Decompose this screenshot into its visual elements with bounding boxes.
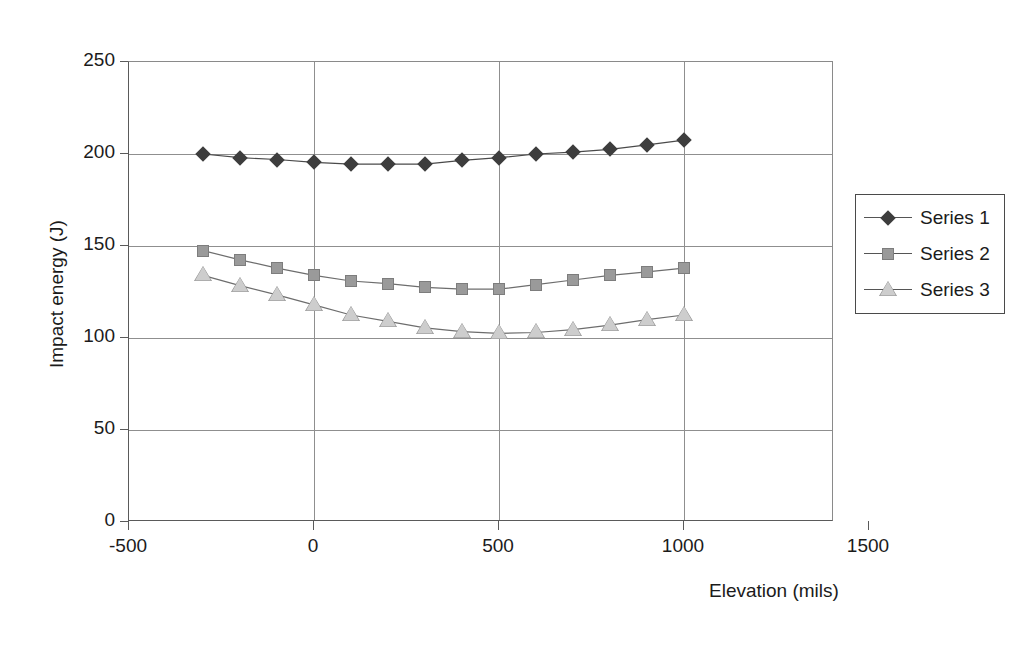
y-axis-tick [120,521,128,522]
x-axis-tick-label: 500 [453,535,543,557]
legend-marker-diamond-icon [864,208,912,228]
x-axis-tick-label: 0 [268,535,358,557]
data-point-marker [308,269,320,281]
data-point-marker [604,269,616,281]
data-point-marker [195,267,211,281]
legend-marker [882,248,894,260]
data-point-marker [678,262,690,274]
x-axis-tick-label: -500 [83,535,173,557]
data-point-marker [271,262,283,274]
data-point-marker [530,279,542,291]
x-axis-tick [313,521,314,530]
y-axis-tick [120,245,128,246]
legend-label: Series 1 [920,207,990,229]
x-axis-tick [128,521,129,530]
legend-entry: Series 3 [856,273,1004,307]
data-point-marker [419,281,431,293]
data-point-marker [493,283,505,295]
series-lines [129,62,834,522]
y-axis-tick-label: 100 [60,325,115,347]
data-point-marker [639,311,655,325]
data-point-marker [454,323,470,337]
y-axis-tick-label: 0 [60,509,115,531]
legend-label: Series 3 [920,279,990,301]
plot-area [128,61,833,521]
data-point-marker [345,275,357,287]
y-axis-tick [120,153,128,154]
data-point-marker [565,321,581,335]
y-axis-tick-label: 200 [60,141,115,163]
data-point-marker [417,319,433,333]
legend-marker [880,282,896,296]
y-axis-tick-label: 250 [60,49,115,71]
y-axis-tick-label: 150 [60,233,115,255]
x-axis-tick [683,521,684,530]
data-point-marker [602,317,618,331]
y-axis-tick-label: 50 [60,417,115,439]
x-axis-label: Elevation (mils) [709,580,839,602]
y-axis-tick [120,61,128,62]
data-point-marker [567,274,579,286]
y-axis-tick [120,429,128,430]
data-point-marker [528,324,544,338]
legend-marker [880,210,896,226]
data-point-marker [269,286,285,300]
data-point-marker [382,278,394,290]
data-point-marker [197,245,209,257]
legend-label: Series 2 [920,243,990,265]
data-point-marker [306,296,322,310]
legend: Series 1Series 2Series 3 [855,194,1005,314]
data-point-marker [380,313,396,327]
data-point-marker [491,325,507,339]
data-point-marker [641,266,653,278]
x-axis-tick-label: 1500 [823,535,913,557]
data-point-marker [456,283,468,295]
y-axis-tick [120,337,128,338]
data-point-marker [232,277,248,291]
data-point-marker [343,307,359,321]
legend-entry: Series 1 [856,201,1004,235]
figure: Impact energy (J) Elevation (mils) 05010… [0,0,1033,660]
x-axis-tick [498,521,499,530]
data-point-marker [234,254,246,266]
legend-marker-triangle-icon [864,280,912,300]
data-point-marker [676,307,692,321]
legend-entry: Series 2 [856,237,1004,271]
legend-marker-square-icon [864,244,912,264]
x-axis-tick [868,521,869,530]
x-axis-tick-label: 1000 [638,535,728,557]
